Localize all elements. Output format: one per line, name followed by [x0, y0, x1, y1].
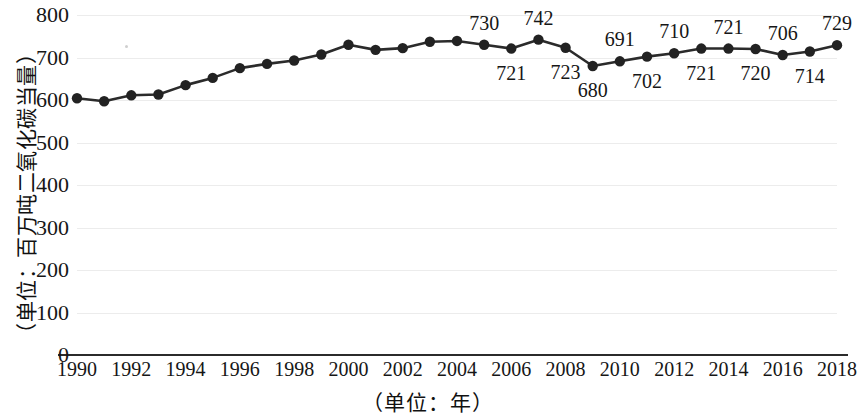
x-axis-tick-label: 2008 [538, 359, 594, 379]
data-point [506, 43, 516, 53]
data-point [180, 80, 190, 90]
data-point [696, 43, 706, 53]
y-axis-tick-label: 300 [11, 217, 69, 239]
x-axis-tick-label: 1990 [49, 359, 105, 379]
data-point-label: 721 [674, 63, 728, 83]
data-point-label: 730 [457, 13, 511, 33]
data-point-label: 721 [484, 63, 538, 83]
x-axis-tick-label: 2002 [375, 359, 431, 379]
data-point [343, 40, 353, 50]
data-point [262, 59, 272, 69]
data-point [479, 40, 489, 50]
data-point-label: 720 [729, 63, 783, 83]
data-point-label: 710 [647, 21, 701, 41]
data-point [72, 93, 82, 103]
x-axis-tick-label: 2016 [755, 359, 811, 379]
x-axis-tick-label: 2012 [646, 359, 702, 379]
x-axis-tick-label: 1994 [158, 359, 214, 379]
data-point [615, 56, 625, 66]
data-point [832, 40, 842, 50]
y-axis-tick-label: 700 [11, 47, 69, 69]
y-axis-tick-label: 200 [11, 259, 69, 281]
data-point [316, 49, 326, 59]
data-point-label: 721 [701, 17, 755, 37]
data-point [425, 37, 435, 47]
x-axis-tick-label: 2000 [320, 359, 376, 379]
x-axis-tick-label: 1992 [103, 359, 159, 379]
y-axis-tick-label: 100 [11, 302, 69, 324]
y-axis-tick-label: 500 [11, 132, 69, 154]
data-point-label: 680 [566, 80, 620, 100]
data-point-label: 691 [593, 29, 647, 49]
data-point-label: 714 [783, 66, 837, 86]
x-axis-tick-label: 2006 [483, 359, 539, 379]
x-axis-tick-label: 1996 [212, 359, 268, 379]
data-point [452, 36, 462, 46]
data-point [805, 46, 815, 56]
data-point [235, 63, 245, 73]
x-axis-title: （单位：年） [0, 386, 855, 416]
plot-area: 7307217427236806917027107217217207067147… [77, 15, 837, 355]
data-point [560, 43, 570, 53]
data-point [533, 34, 543, 44]
data-point [153, 89, 163, 99]
data-point [723, 43, 733, 53]
data-point [750, 44, 760, 54]
data-point [99, 96, 109, 106]
data-point [126, 90, 136, 100]
data-point [289, 55, 299, 65]
data-point [398, 43, 408, 53]
x-axis-tick-label: 2010 [592, 359, 648, 379]
data-point-label: 702 [620, 71, 674, 91]
data-point [642, 51, 652, 61]
data-point [778, 50, 788, 60]
y-axis-tick-label: 800 [11, 4, 69, 26]
x-axis-tick-label: 2004 [429, 359, 485, 379]
y-axis-tick-label: 400 [11, 174, 69, 196]
x-axis-tick-label: 2014 [700, 359, 756, 379]
data-point [669, 48, 679, 58]
x-axis-tick-label: 2018 [809, 359, 861, 379]
data-point-label: 742 [511, 8, 565, 28]
data-point-label: 706 [756, 23, 810, 43]
y-axis-tick-label: 600 [11, 89, 69, 111]
x-axis-tick-label: 1998 [266, 359, 322, 379]
data-point [370, 45, 380, 55]
data-point [208, 73, 218, 83]
data-point-label: 729 [810, 13, 861, 33]
